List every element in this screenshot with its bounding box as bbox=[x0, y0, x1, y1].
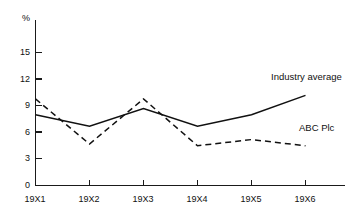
x-tick-label-19X5: 19X5 bbox=[231, 194, 271, 204]
x-tick-label-19X1: 19X1 bbox=[15, 194, 55, 204]
y-tick-label-15: 15 bbox=[8, 47, 30, 57]
y-axis-ticks bbox=[36, 53, 42, 159]
y-tick-label-9: 9 bbox=[8, 100, 30, 110]
chart-container: % 15 12 9 6 3 0 19X1 19X2 19X3 19X4 19X5… bbox=[0, 0, 357, 213]
y-tick-label-6: 6 bbox=[8, 127, 30, 137]
series-line-abc-plc bbox=[36, 99, 306, 146]
series-label-abc-plc: ABC Plc bbox=[299, 122, 334, 133]
x-axis-ticks bbox=[36, 180, 306, 186]
x-tick-label-19X6: 19X6 bbox=[285, 194, 325, 204]
x-tick-label-19X2: 19X2 bbox=[69, 194, 109, 204]
y-tick-label-0: 0 bbox=[8, 180, 30, 190]
chart-plot-area bbox=[0, 0, 357, 213]
y-axis-unit-label: % bbox=[22, 13, 30, 23]
y-tick-label-12: 12 bbox=[8, 74, 30, 84]
x-tick-label-19X3: 19X3 bbox=[123, 194, 163, 204]
x-tick-label-19X4: 19X4 bbox=[177, 194, 217, 204]
series-label-industry-average: Industry average bbox=[271, 71, 342, 82]
y-tick-label-3: 3 bbox=[8, 153, 30, 163]
